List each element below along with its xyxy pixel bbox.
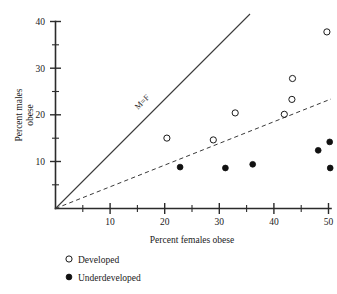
legend-label-developed: Developed <box>78 255 119 265</box>
data-point-developed <box>289 75 295 81</box>
series-underdeveloped <box>177 139 333 171</box>
data-point-underdeveloped <box>250 161 256 167</box>
data-point-developed <box>281 111 287 117</box>
data-point-underdeveloped <box>177 164 183 170</box>
obesity-scatter-figure: 40 30 20 10 10 20 30 40 50 Percent <box>0 0 337 294</box>
legend-marker-filled-circle <box>66 274 72 280</box>
x-tick-label-50: 50 <box>324 217 334 227</box>
data-point-developed <box>324 29 330 35</box>
legend-entry-underdeveloped[interactable]: Underdeveloped <box>66 273 141 283</box>
x-tick-label-10: 10 <box>105 217 115 227</box>
identity-line-label-text: M=F <box>132 92 151 111</box>
y-tick-label-20: 20 <box>36 110 46 120</box>
legend-marker-open-circle <box>66 256 72 262</box>
data-point-developed <box>289 96 295 102</box>
y-axis-title-line1: Percent males <box>14 88 24 141</box>
legend-entry-developed[interactable]: Developed <box>66 255 119 265</box>
fit-reference-line <box>56 99 332 209</box>
x-axis-title: Percent females obese <box>150 235 234 245</box>
x-axis-tick-labels: 10 20 30 40 50 <box>105 217 333 227</box>
legend: Developed Underdeveloped <box>66 255 141 283</box>
data-point-underdeveloped <box>327 139 333 145</box>
y-axis-title: Percent males obese <box>14 88 35 141</box>
data-point-developed <box>232 110 238 116</box>
series-developed <box>164 29 330 143</box>
data-point-underdeveloped <box>327 165 333 171</box>
y-tick-label-10: 10 <box>36 157 46 167</box>
identity-line-label: M=F <box>132 92 151 111</box>
y-axis-title-line2: obese <box>25 104 35 126</box>
scatter-plot-svg: 40 30 20 10 10 20 30 40 50 Percent <box>0 0 337 294</box>
identity-reference-line <box>56 14 251 209</box>
x-tick-label-30: 30 <box>215 217 225 227</box>
data-point-developed <box>210 137 216 143</box>
data-point-underdeveloped <box>223 165 229 171</box>
x-tick-label-20: 20 <box>160 217 170 227</box>
legend-label-underdeveloped: Underdeveloped <box>78 273 141 283</box>
y-tick-label-40: 40 <box>36 17 46 27</box>
x-tick-label-40: 40 <box>269 217 279 227</box>
data-point-developed <box>164 135 170 141</box>
data-point-underdeveloped <box>315 147 321 153</box>
y-axis-tick-labels: 40 30 20 10 <box>36 17 46 167</box>
y-tick-label-30: 30 <box>36 64 46 74</box>
